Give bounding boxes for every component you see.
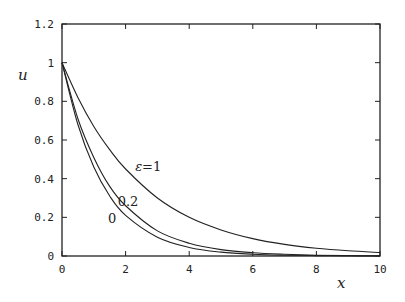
y-tick-label: 0 (47, 250, 54, 263)
x-tick-label: 4 (186, 263, 193, 276)
curves (62, 63, 380, 256)
curve-label: ε=1 (135, 159, 161, 174)
x-tick-label: 2 (122, 263, 129, 276)
curve-label: 0 (108, 211, 116, 226)
y-tick-label: 1 (47, 57, 54, 70)
x-tick-label: 6 (249, 263, 256, 276)
tick-labels: 024681000.20.40.60.811.2 (34, 18, 387, 276)
x-tick-label: 8 (313, 263, 320, 276)
x-tick-label: 0 (59, 263, 66, 276)
curve-label: 0.2 (118, 194, 139, 209)
curve-0 (62, 63, 380, 256)
y-axis-label: u (18, 66, 28, 84)
y-tick-label: 0.4 (34, 173, 54, 186)
curve-0.2 (62, 63, 380, 256)
curve-labels: ε=10.20 (108, 159, 161, 226)
y-tick-label: 0.2 (34, 211, 54, 224)
y-tick-label: 0.6 (34, 134, 54, 147)
x-axis-label: x (337, 274, 346, 292)
line-chart: 024681000.20.40.60.811.2 ε=10.20 u x (0, 0, 405, 302)
y-tick-label: 1.2 (34, 18, 54, 31)
y-tick-label: 0.8 (34, 95, 54, 108)
x-tick-label: 10 (373, 263, 386, 276)
